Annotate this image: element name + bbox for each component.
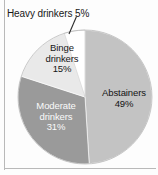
abstainers-label-value: 49%: [92, 99, 156, 110]
pie-chart-figure: Heavy drinkers 5% Binge drinkers 15% Mod…: [0, 0, 158, 175]
binge-drinkers-label: Binge drinkers 15%: [36, 43, 88, 75]
moderate-drinkers-label: Moderate drinkers 31%: [25, 101, 87, 133]
moderate-drinkers-label-value: 31%: [25, 122, 87, 133]
heavy-drinkers-label-text: Heavy drinkers 5%: [7, 8, 135, 19]
heavy-drinkers-label: Heavy drinkers 5%: [7, 8, 135, 19]
abstainers-label: Abstainers 49%: [92, 88, 156, 109]
binge-drinkers-label-value: 15%: [36, 64, 88, 75]
